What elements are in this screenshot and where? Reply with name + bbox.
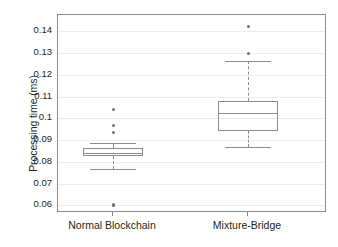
y-tick-label: 0.09 [12,134,52,144]
x-tick-mark [112,212,113,216]
y-tick-label: 0.1 [12,112,52,122]
y-axis-title: Processing time (ms) [22,0,44,247]
lower-whisker [248,131,250,147]
lower-whisker-cap [225,147,271,148]
y-tick-label: 0.07 [12,178,52,188]
x-tick-mark [247,212,248,216]
upper-whisker-cap [225,61,271,62]
y-tick-label: 0.06 [12,199,52,209]
y-tick-label: 0.14 [12,25,52,35]
y-tick-label: 0.08 [12,156,52,166]
plot-area [57,14,326,212]
median-line [218,113,278,114]
outlier-point [247,25,250,28]
upper-whisker [248,61,250,101]
y-tick-label: 0.13 [12,47,52,57]
x-tick-label: Normal Blockchain [37,219,187,232]
boxplot-mixture-bridge [58,15,325,211]
y-tick-label: 0.12 [12,69,52,79]
x-tick-label: Mixture-Bridge [172,219,322,232]
box-iqr [218,101,278,131]
boxplot-figure: Processing time (ms) 0.060.070.080.090.1… [0,0,338,247]
y-tick-label: 0.11 [12,91,52,101]
outlier-point [247,52,250,55]
